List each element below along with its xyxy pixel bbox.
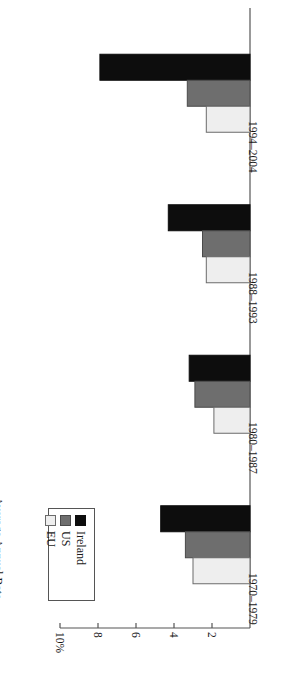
value-axis-title: Average Annual Rate of Real GDP Growth	[0, 497, 6, 599]
bar-ireland-19942004	[100, 54, 250, 80]
legend-label-us: US	[60, 531, 72, 546]
chart-legend: EUUSIreland	[48, 508, 95, 601]
bar-ireland-19801987	[189, 355, 250, 381]
legend-item-ireland: Ireland	[75, 515, 87, 565]
legend-label-eu: EU	[45, 531, 57, 547]
category-label-1: 1980–1987	[247, 422, 259, 474]
tick-label-3: 4	[168, 632, 180, 638]
bar-eu-19881993	[206, 257, 250, 283]
tick-label-1: 8	[92, 632, 104, 638]
category-label-3: 1994–2004	[247, 121, 259, 173]
bar-eu-19801987	[214, 407, 250, 433]
bar-ireland-19881993	[168, 205, 250, 231]
legend-swatch-ireland-icon	[76, 515, 87, 526]
legend-item-us: US	[60, 515, 72, 546]
category-label-2: 1988–1993	[247, 272, 259, 324]
bar-us-19881993	[203, 231, 251, 257]
legend-swatch-us-icon	[61, 515, 72, 526]
tick-label-4: 2	[206, 632, 218, 638]
bar-us-19701979	[185, 532, 250, 558]
category-label-0: 1970–1979	[247, 573, 259, 625]
legend-swatch-eu-icon	[46, 515, 57, 526]
bar-chart-plot	[0, 0, 282, 690]
bar-ireland-19701979	[161, 506, 250, 532]
chart-figure: 10%8642 1970–19791980–19871988–19931994–…	[0, 0, 282, 690]
legend-label-ireland: Ireland	[75, 531, 87, 565]
axis-title-line-1: Average Annual Rate	[0, 497, 6, 599]
bar-us-19942004	[187, 80, 250, 106]
tick-label-0: 10%	[54, 632, 66, 653]
bar-us-19801987	[195, 381, 250, 407]
bar-eu-19942004	[206, 106, 250, 132]
legend-item-eu: EU	[45, 515, 57, 547]
tick-label-2: 6	[130, 632, 142, 638]
bar-eu-19701979	[193, 558, 250, 584]
